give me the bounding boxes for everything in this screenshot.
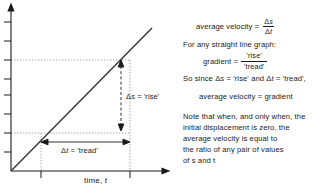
rise-annotation: Δs = 'rise' bbox=[126, 92, 159, 101]
explanation-text-panel: average velocity = Δs Δt For any straigh… bbox=[183, 0, 325, 193]
delta-s-over-delta-t-fraction: Δs Δt bbox=[262, 18, 275, 35]
y-axis-arrow-icon bbox=[8, 4, 14, 11]
note-line: average velocity is equal to bbox=[183, 133, 325, 144]
so-since-suffix: = 'tread', bbox=[274, 74, 306, 83]
tread-measure-arrow bbox=[41, 139, 130, 145]
displacement-time-graph: Δs = 'rise' Δt = 'tread' time, t bbox=[0, 0, 180, 193]
y-axis bbox=[4, 4, 14, 171]
gradient-denominator: 'tread' bbox=[241, 61, 267, 70]
gradient-numerator: 'rise' bbox=[244, 52, 265, 60]
rise-text: = 'rise' bbox=[135, 92, 159, 101]
y-axis-ticks bbox=[4, 22, 11, 152]
so-since-middle: = 'rise' and bbox=[224, 74, 266, 83]
average-velocity-label: average velocity = bbox=[196, 21, 259, 32]
fraction-denominator: Δt bbox=[263, 26, 274, 35]
x-axis-label: time, t bbox=[84, 176, 107, 185]
tread-arrow-head-right-icon bbox=[123, 139, 130, 145]
figure-root: Δs = 'rise' Δt = 'tread' time, t average… bbox=[0, 0, 325, 193]
average-velocity-equals-gradient-text: average velocity = gradient bbox=[183, 91, 325, 102]
note-line: Note that when, and only when, the bbox=[183, 111, 325, 122]
for-any-straight-line-text: For any straight line graph: bbox=[183, 39, 325, 50]
rise-arrow-head-down-icon bbox=[118, 124, 124, 131]
tread-text: = 'tread' bbox=[68, 146, 98, 155]
note-line: the ratio of any pair of values bbox=[183, 144, 325, 155]
x-axis-arrow-icon bbox=[162, 168, 169, 174]
denominator-variable: t bbox=[270, 27, 272, 36]
note-line: of s and t bbox=[183, 155, 325, 166]
note-line: initial displacement is zero, the bbox=[183, 122, 325, 133]
note-paragraph: Note that when, and only when, the initi… bbox=[183, 111, 325, 166]
rise-measure-arrow bbox=[118, 60, 124, 131]
gradient-equation: gradient = 'rise' 'tread' bbox=[183, 52, 325, 70]
average-velocity-equation: average velocity = Δs Δt bbox=[183, 18, 325, 35]
x-axis-label-text: time, bbox=[84, 176, 105, 185]
so-since-text: So since Δs = 'rise' and Δt = 'tread', bbox=[183, 73, 325, 84]
numerator-variable: s bbox=[269, 17, 273, 26]
fraction-numerator: Δs bbox=[262, 18, 275, 26]
gradient-label: gradient = bbox=[203, 56, 238, 67]
so-since-prefix: So since bbox=[183, 74, 215, 83]
tread-annotation: Δt = 'tread' bbox=[61, 146, 98, 155]
x-axis-label-variable: t bbox=[105, 176, 107, 185]
rise-over-tread-fraction: 'rise' 'tread' bbox=[241, 52, 267, 70]
